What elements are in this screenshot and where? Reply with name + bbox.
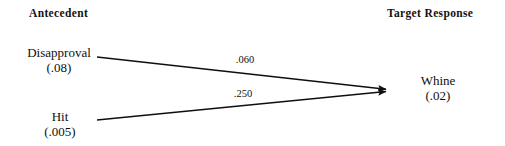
node-hit: Hit (.005) (20, 110, 100, 139)
node-hit-label: Hit (20, 110, 100, 125)
edge-label-hit-to-whine: .250 (219, 88, 267, 99)
node-whine-value: (.02) (398, 89, 478, 104)
node-whine-label: Whine (398, 74, 478, 89)
path-diagram: Antecedent Target Response Disapproval (… (0, 0, 505, 146)
node-disapproval: Disapproval (.08) (9, 46, 109, 75)
node-disapproval-label: Disapproval (9, 46, 109, 61)
node-disapproval-value: (.08) (9, 61, 109, 76)
edge-label-disapproval-to-whine: .060 (221, 54, 269, 65)
node-hit-value: (.005) (20, 125, 100, 140)
node-whine: Whine (.02) (398, 74, 478, 103)
